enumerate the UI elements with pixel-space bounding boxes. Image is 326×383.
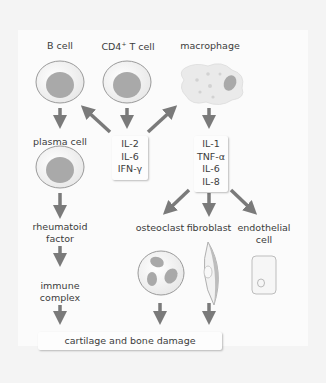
cytokine: TNF-α [194, 151, 228, 164]
t-cell-icon [103, 61, 151, 103]
label-b-cell: B cell [40, 40, 80, 52]
endothelial-cell-icon [252, 256, 276, 294]
cell-text: cell [234, 234, 294, 246]
cytokine: IL-2 [112, 138, 148, 151]
cd4-text: CD4 [101, 41, 121, 52]
rheumatoid-text: rheumatoid [25, 221, 95, 233]
cytokine: IL-6 [194, 163, 228, 176]
cytokine: IL-1 [194, 138, 228, 151]
label-fibroblast: fibroblast [186, 222, 232, 234]
diagram-graphics [0, 0, 326, 383]
factor-text: factor [25, 233, 95, 245]
b-cell-icon [36, 61, 84, 103]
cytokine: IL-6 [112, 151, 148, 164]
tcell-cytokines-box: IL-2 IL-6 IFN-γ [112, 136, 148, 180]
cytokine: IFN-γ [112, 163, 148, 176]
label-plasma-cell: plasma cell [30, 136, 90, 148]
damage-box: cartilage and bone damage [38, 332, 222, 350]
label-endothelial-cell: endothelial cell [234, 222, 294, 246]
label-macrophage: macrophage [180, 40, 240, 52]
endothelial-text: endothelial [234, 222, 294, 234]
label-cd4-t-cell: CD4+ T cell [97, 38, 159, 53]
macrophage-icon [181, 64, 243, 105]
fibroblast-icon [204, 242, 218, 305]
plasma-cell-icon [36, 146, 84, 188]
immune-text: immune [30, 280, 90, 292]
label-osteoclast: osteoclast [134, 222, 186, 234]
osteoclast-icon [138, 251, 184, 295]
cytokine: IL-8 [194, 176, 228, 189]
complex-text: complex [30, 292, 90, 304]
macrophage-cytokines-box: IL-1 TNF-α IL-6 IL-8 [194, 136, 228, 192]
label-immune-complex: immune complex [30, 280, 90, 304]
t-cell-text: T cell [126, 41, 154, 52]
label-rheumatoid-factor: rheumatoid factor [25, 221, 95, 245]
